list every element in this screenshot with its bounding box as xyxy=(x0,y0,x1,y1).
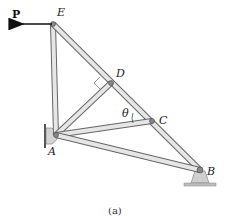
theta-arc xyxy=(132,113,133,123)
figure-caption: (a) xyxy=(108,205,122,216)
pin-c xyxy=(150,119,155,124)
members xyxy=(53,24,200,170)
pin-b xyxy=(197,167,203,173)
joint-label-c: C xyxy=(159,114,168,127)
joint-label-e: E xyxy=(56,6,65,19)
joint-label-d: D xyxy=(115,67,125,80)
pin-a xyxy=(54,133,59,138)
truss-svg: P E D C A B θ (a) xyxy=(0,0,229,220)
pin-d xyxy=(109,81,114,86)
right-angle-mark xyxy=(94,77,100,89)
force-label: P xyxy=(12,8,20,21)
joint-label-a: A xyxy=(47,145,56,158)
joint-label-b: B xyxy=(206,165,215,178)
truss-diagram: P E D C A B θ (a) xyxy=(0,0,229,220)
angle-label-theta: θ xyxy=(122,107,129,120)
